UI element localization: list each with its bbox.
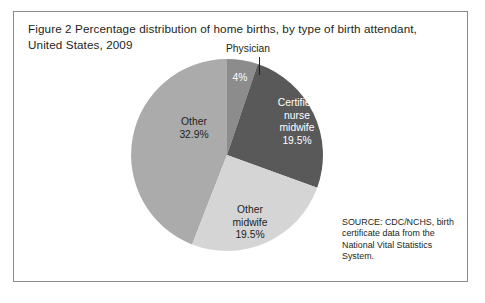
pie-leader-line-physician: [259, 57, 260, 75]
pie-label-physician: Physician: [226, 43, 270, 56]
pie-chart-svg: [127, 55, 327, 255]
source-note: SOURCE: CDC/NCHS, birth certificate data…: [342, 217, 466, 262]
figure-frame: Figure 2 Percentage distribution of home…: [13, 11, 468, 282]
